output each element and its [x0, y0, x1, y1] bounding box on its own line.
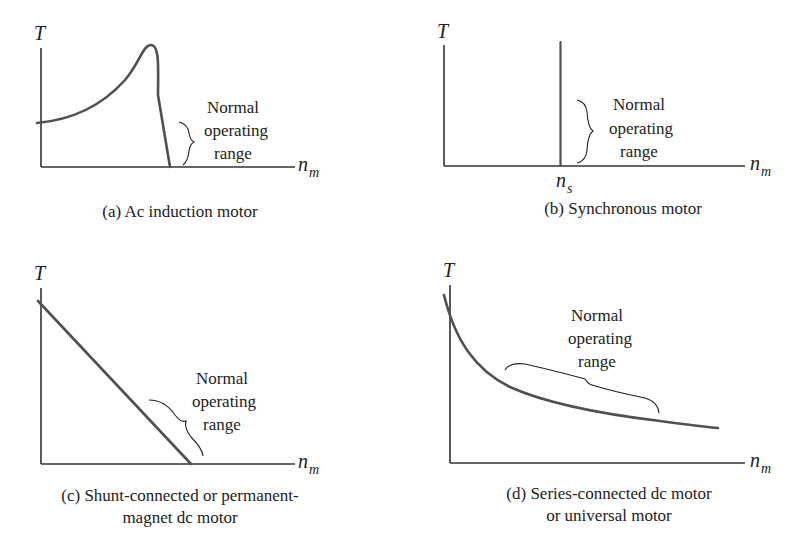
panel-a: T nm Normal operating range (a) Ac induc… — [34, 22, 319, 221]
torque-speed-curve — [37, 45, 170, 167]
x-axis-label: nm — [750, 152, 771, 179]
annotation-line-1: Normal — [613, 95, 665, 114]
annotation-line-2: operating — [204, 121, 269, 140]
panel-b: T nm ns Normal operating range (b) Synch… — [437, 20, 771, 218]
annotation-line-3: range — [578, 352, 616, 371]
annotation-line-1: Normal — [196, 369, 248, 388]
motor-characteristics-figure: T nm Normal operating range (a) Ac induc… — [0, 0, 795, 546]
annotation-line-3: range — [214, 144, 252, 163]
tick-label-ns: ns — [556, 169, 573, 196]
annotation-line-3: range — [203, 415, 241, 434]
y-axis-label: T — [34, 262, 47, 284]
y-axis-label: T — [34, 22, 47, 44]
operating-range-brace — [179, 122, 194, 165]
caption: (a) Ac induction motor — [102, 202, 258, 221]
annotation-line-2: operating — [609, 119, 674, 138]
annotation-line-2: operating — [192, 392, 257, 411]
operating-range-brace — [505, 364, 659, 413]
panel-c: T nm Normal operating range (c) Shunt-co… — [34, 262, 319, 527]
annotation-line-1: Normal — [571, 306, 623, 325]
caption-line-2: or universal motor — [546, 506, 672, 525]
caption-line-2: magnet dc motor — [122, 508, 238, 527]
caption: (b) Synchronous motor — [544, 199, 702, 218]
annotation-line-1: Normal — [207, 98, 259, 117]
caption-line-1: (d) Series-connected dc motor — [506, 484, 712, 503]
caption-line-1: (c) Shunt-connected or permanent- — [61, 486, 299, 505]
x-axis-label: nm — [298, 153, 319, 180]
annotation-line-3: range — [620, 142, 658, 161]
x-axis-label: nm — [298, 450, 319, 477]
y-axis-label: T — [437, 20, 450, 42]
panel-d: T nm Normal operating range (d) Series-c… — [443, 259, 771, 525]
torque-speed-line — [38, 301, 191, 464]
operating-range-brace — [577, 100, 593, 163]
x-axis-label: nm — [750, 449, 771, 476]
annotation-line-2: operating — [568, 329, 633, 348]
y-axis-label: T — [443, 259, 456, 281]
